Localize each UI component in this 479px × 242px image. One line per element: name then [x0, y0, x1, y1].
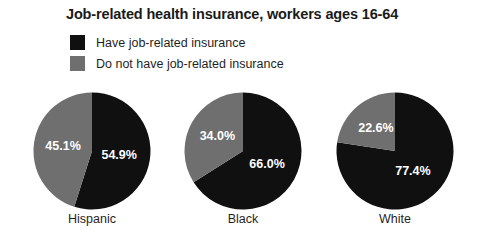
legend-item-no-insurance: Do not have job-related insurance	[70, 53, 284, 74]
pie-slice-label: 22.6%	[358, 121, 393, 135]
pie-chart-hispanic: 54.9%45.1%	[33, 92, 151, 210]
legend-label-have-insurance: Have job-related insurance	[96, 36, 245, 50]
legend-swatch-have-insurance	[70, 35, 85, 50]
pie-caption-black: Black	[184, 212, 302, 226]
pie-chart-row: 54.9%45.1% Hispanic 66.0%34.0% Black 77.…	[0, 92, 479, 242]
chart-legend: Have job-related insurance Do not have j…	[70, 32, 284, 74]
chart-title: Job-related health insurance, workers ag…	[66, 6, 398, 22]
pie-slice-label: 45.1%	[45, 139, 80, 153]
pie-chart-black: 66.0%34.0%	[184, 92, 302, 210]
legend-item-have-insurance: Have job-related insurance	[70, 32, 284, 53]
pie-group-hispanic: 54.9%45.1% Hispanic	[33, 92, 151, 226]
pie-caption-white: White	[336, 212, 454, 226]
pie-group-white: 77.4%22.6% White	[336, 92, 454, 226]
legend-swatch-no-insurance	[70, 56, 85, 71]
chart-container: Job-related health insurance, workers ag…	[0, 0, 479, 242]
pie-group-black: 66.0%34.0% Black	[184, 92, 302, 226]
pie-slice-label: 66.0%	[249, 157, 284, 171]
pie-caption-hispanic: Hispanic	[33, 212, 151, 226]
pie-chart-white: 77.4%22.6%	[336, 92, 454, 210]
pie-slice-label: 77.4%	[395, 164, 430, 178]
pie-slice-label: 54.9%	[101, 148, 136, 162]
legend-label-no-insurance: Do not have job-related insurance	[96, 57, 284, 71]
pie-slice-label: 34.0%	[200, 129, 235, 143]
